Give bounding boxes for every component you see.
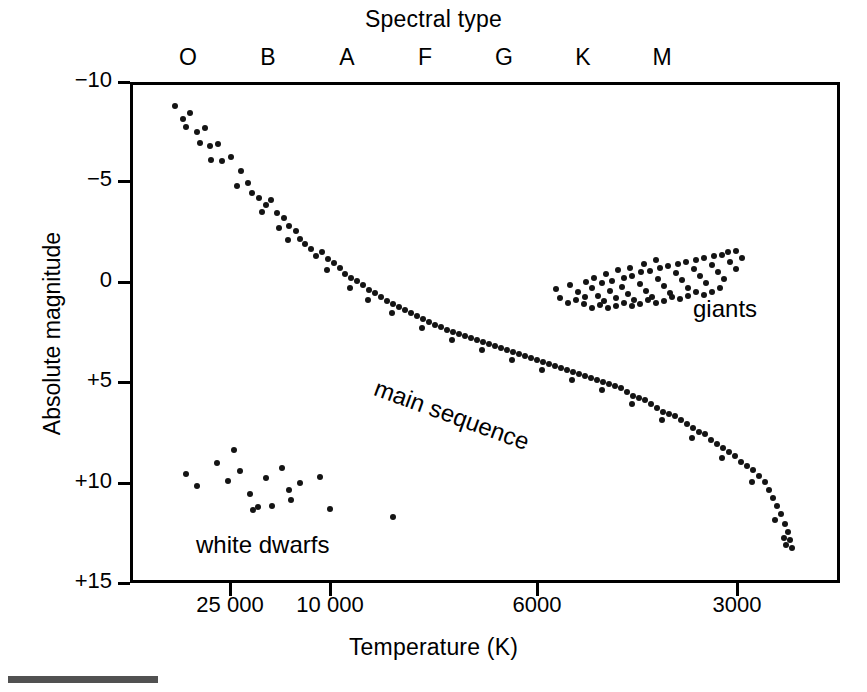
y-tick-label: +15 xyxy=(22,568,112,594)
data-point xyxy=(259,209,265,215)
data-point xyxy=(661,298,667,304)
data-point xyxy=(607,288,613,294)
data-point xyxy=(641,261,647,267)
data-point xyxy=(629,401,635,407)
data-point xyxy=(194,483,200,489)
data-point xyxy=(286,487,292,493)
data-point xyxy=(234,183,240,189)
data-point xyxy=(655,276,661,282)
data-point xyxy=(643,288,649,294)
data-point xyxy=(215,141,221,147)
data-point xyxy=(645,297,651,303)
data-point xyxy=(637,301,643,307)
data-point xyxy=(719,252,725,258)
data-point xyxy=(286,223,292,229)
y-tick-label: −10 xyxy=(22,67,112,93)
data-point xyxy=(685,293,691,299)
data-point xyxy=(679,277,685,283)
data-point xyxy=(766,487,772,493)
spectral-type-tick-m: M xyxy=(632,44,692,71)
data-point xyxy=(629,273,635,279)
data-point xyxy=(605,305,611,311)
data-point xyxy=(249,190,255,196)
data-point xyxy=(781,535,787,541)
data-point xyxy=(207,143,213,149)
data-point xyxy=(389,310,395,316)
spectral-type-tick-b: B xyxy=(238,44,298,71)
data-point xyxy=(238,168,244,174)
data-point xyxy=(324,267,330,273)
data-point xyxy=(263,475,269,481)
data-point xyxy=(683,259,689,265)
y-tick-label: +10 xyxy=(22,468,112,494)
data-point xyxy=(615,267,621,273)
data-point xyxy=(281,215,287,221)
data-point xyxy=(288,497,294,503)
data-point xyxy=(727,259,733,265)
data-point xyxy=(172,103,178,109)
x-tick-label: 6000 xyxy=(477,592,597,618)
data-point xyxy=(627,265,633,271)
white-dwarfs-label: white dwarfs xyxy=(196,531,329,559)
giants-label: giants xyxy=(693,295,757,323)
data-point xyxy=(327,506,333,512)
data-point xyxy=(774,503,780,509)
data-point xyxy=(575,289,581,295)
data-point xyxy=(619,284,625,290)
data-point xyxy=(750,467,756,473)
data-point xyxy=(621,275,627,281)
data-point xyxy=(569,377,575,383)
data-point xyxy=(648,401,654,407)
data-point xyxy=(354,278,360,284)
data-point xyxy=(228,154,234,160)
data-point xyxy=(557,295,563,301)
data-point xyxy=(625,291,631,297)
data-point xyxy=(609,278,615,284)
data-point xyxy=(675,261,681,267)
data-point xyxy=(582,294,588,300)
spectral-type-tick-o: O xyxy=(158,44,218,71)
data-point xyxy=(689,435,695,441)
data-point xyxy=(274,210,280,216)
data-point xyxy=(653,257,659,263)
data-point xyxy=(778,511,784,517)
data-point xyxy=(673,270,679,276)
data-point xyxy=(509,357,515,363)
data-point xyxy=(642,397,648,403)
temperature-title: Temperature (K) xyxy=(0,634,867,661)
data-point xyxy=(319,249,325,255)
page-scan-artifact xyxy=(8,676,158,683)
data-point xyxy=(276,225,282,231)
data-point xyxy=(360,282,366,288)
data-point xyxy=(618,385,624,391)
data-point xyxy=(711,253,717,259)
data-point xyxy=(581,301,587,307)
data-point xyxy=(725,249,731,255)
y-tick-label: +5 xyxy=(22,367,112,393)
data-point xyxy=(187,110,193,116)
data-point xyxy=(647,268,653,274)
data-point xyxy=(595,293,601,299)
data-point xyxy=(245,180,251,186)
data-point xyxy=(279,465,285,471)
data-point xyxy=(732,453,738,459)
data-point xyxy=(661,283,667,289)
data-point xyxy=(331,260,337,266)
data-point xyxy=(285,237,291,243)
data-point xyxy=(317,474,323,480)
spectral-type-tick-f: F xyxy=(395,44,455,71)
data-point xyxy=(638,269,644,275)
plot-frame xyxy=(130,82,840,583)
data-point xyxy=(756,473,762,479)
data-point xyxy=(419,325,425,331)
y-tick-mark xyxy=(118,582,130,585)
y-tick-mark xyxy=(118,482,130,485)
data-point xyxy=(678,417,684,423)
data-point xyxy=(194,129,200,135)
data-point xyxy=(325,256,331,262)
data-point xyxy=(268,197,274,203)
data-point xyxy=(659,417,665,423)
data-point xyxy=(202,125,208,131)
data-point xyxy=(665,263,671,269)
data-point xyxy=(685,285,691,291)
